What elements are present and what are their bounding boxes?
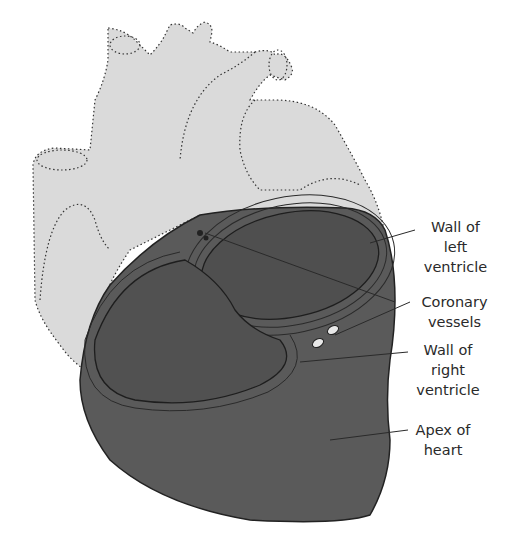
label-wall-of-right-ventricle: Wall of right ventricle <box>408 340 488 400</box>
label-wall-of-left-ventricle: Wall of left ventricle <box>418 217 493 277</box>
label-apex-of-heart: Apex of heart <box>408 420 478 460</box>
label-coronary-vessels: Coronary vessels <box>412 292 497 332</box>
heart-diagram <box>0 0 518 557</box>
